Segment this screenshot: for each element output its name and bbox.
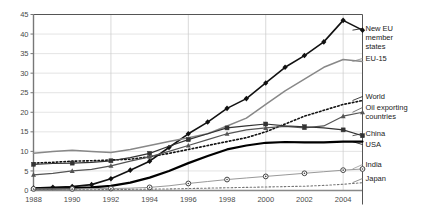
x-tick-label: 2002 — [296, 195, 313, 204]
legend-connector — [353, 97, 363, 101]
data-point-marker — [225, 126, 229, 130]
legend-label-usa: USA — [366, 140, 381, 149]
data-point-marker-center — [304, 172, 306, 174]
data-point-marker — [148, 151, 152, 155]
data-point-marker — [109, 159, 113, 163]
series-line-usa — [34, 142, 363, 189]
data-point-marker-center — [188, 183, 190, 185]
line-chart: 0510152025303540451988199019921994199619… — [0, 0, 436, 211]
legend-label-china: China — [366, 129, 386, 138]
x-tick-label: 1988 — [25, 195, 42, 204]
x-tick-label: 1990 — [64, 195, 81, 204]
y-tick-label: 25 — [20, 88, 28, 97]
series-line-oil-exporting-countries — [34, 112, 363, 175]
data-point-marker — [302, 125, 306, 129]
legend-connector — [353, 108, 363, 113]
x-tick-label: 1992 — [103, 195, 120, 204]
legend-label-new-eu-member-states: New EU — [366, 24, 394, 33]
y-tick-label: 35 — [20, 49, 28, 58]
data-point-marker — [186, 138, 190, 142]
y-tick-label: 15 — [20, 127, 28, 136]
chart-canvas: 0510152025303540451988199019921994199619… — [0, 0, 436, 211]
legend-label-new-eu-member-states: member — [366, 33, 394, 42]
series-line-china — [34, 124, 363, 164]
x-tick-label: 2004 — [335, 195, 352, 204]
x-tick-label: 1994 — [141, 195, 158, 204]
y-tick-label: 5 — [24, 167, 28, 176]
legend-label-new-eu-member-states: states — [366, 42, 386, 51]
legend-label-japan: Japan — [366, 174, 386, 183]
data-point-marker — [264, 122, 268, 126]
data-point-marker — [360, 27, 365, 33]
legend-label-oil-exporting-countries: Oil exporting — [366, 103, 408, 112]
y-tick-label: 30 — [20, 69, 28, 78]
x-tick-label: 1996 — [180, 195, 197, 204]
legend-label-world: World — [366, 92, 385, 101]
y-tick-label: 45 — [20, 10, 28, 19]
data-point-marker — [128, 167, 133, 173]
data-point-marker-center — [226, 179, 228, 181]
y-tick-label: 10 — [20, 147, 28, 156]
series-line-eu-15 — [34, 59, 363, 153]
legend-label-india: India — [366, 160, 383, 169]
y-tick-label: 40 — [20, 30, 28, 39]
data-point-marker — [70, 161, 74, 165]
data-point-marker-center — [342, 169, 344, 171]
x-tick-label: 2000 — [257, 195, 274, 204]
data-point-marker — [108, 176, 113, 182]
data-point-marker-center — [362, 168, 364, 170]
data-point-marker — [32, 162, 36, 166]
legend-label-eu-15: EU-15 — [366, 54, 387, 63]
data-point-marker — [341, 128, 345, 132]
data-point-marker-center — [149, 187, 151, 189]
x-tick-label: 1998 — [219, 195, 236, 204]
legend-connector — [353, 179, 363, 183]
data-point-marker — [361, 134, 365, 138]
legend-label-oil-exporting-countries: countries — [366, 112, 397, 121]
y-tick-label: 20 — [20, 108, 28, 117]
data-point-marker-center — [265, 176, 267, 178]
